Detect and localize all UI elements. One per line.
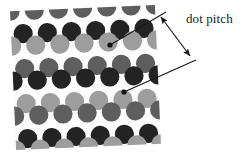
dot-pitch-label: dot pitch	[186, 11, 233, 27]
dot-pitch-diagram: dot pitch	[0, 0, 250, 153]
